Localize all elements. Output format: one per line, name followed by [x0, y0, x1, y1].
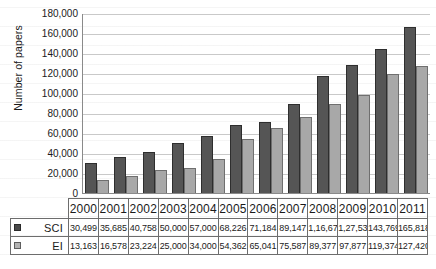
table-cell-value: 35,685 — [98, 219, 128, 237]
y-tick-label: 120,000 — [42, 69, 78, 79]
bar-group — [285, 14, 314, 193]
bar-ei-2000 — [97, 180, 109, 193]
table-cell-value: 30,499 — [69, 219, 99, 237]
table-cell-value: 119,374 — [368, 237, 398, 255]
legend-label: SCI — [44, 222, 63, 234]
bar-sci-2011 — [404, 27, 416, 193]
table-header-year: 2001 — [98, 199, 128, 219]
y-tick-label: 20,000 — [47, 169, 78, 179]
bar-group — [83, 14, 112, 193]
bar-group — [343, 14, 372, 193]
bar-group — [199, 14, 228, 193]
table-header-year: 2007 — [278, 199, 308, 219]
bar-ei-2002 — [155, 170, 167, 193]
legend-item-ei[interactable]: EI — [11, 237, 69, 255]
table-cell-value: 1,27,532 — [338, 219, 368, 237]
bar-group — [314, 14, 343, 193]
bar-group — [228, 14, 257, 193]
table-corner-cell — [11, 199, 69, 219]
table-header-year: 2003 — [158, 199, 188, 219]
bar-ei-2011 — [416, 66, 428, 193]
table-header-year: 2000 — [69, 199, 99, 219]
y-axis-ticks: 020,00040,00060,00080,000100,000120,0001… — [8, 14, 80, 194]
table-cell-value: 23,224 — [128, 237, 158, 255]
bar-ei-2008 — [329, 104, 341, 193]
table-header-year: 2006 — [248, 199, 278, 219]
bar-sci-2005 — [230, 125, 242, 193]
table-header-year: 2005 — [218, 199, 248, 219]
y-tick-label: 160,000 — [42, 29, 78, 39]
table-header-year: 2009 — [338, 199, 368, 219]
sci-swatch-icon — [14, 224, 21, 231]
bar-sci-2007 — [288, 104, 300, 193]
bar-groups — [83, 14, 430, 193]
table-header-year: 2004 — [188, 199, 218, 219]
table-cell-value: 54,362 — [218, 237, 248, 255]
bar-ei-2007 — [300, 117, 312, 193]
table-cell-value: 68,226 — [218, 219, 248, 237]
bar-ei-2005 — [242, 139, 254, 193]
bar-sci-2002 — [143, 152, 155, 193]
table-cell-value: 1,16,677 — [308, 219, 338, 237]
table-cell-value: 57,000 — [188, 219, 218, 237]
table-cell-value: 143,769 — [368, 219, 398, 237]
table-header-year: 2010 — [368, 199, 398, 219]
table-cell-value: 65,041 — [248, 237, 278, 255]
y-tick-label: 140,000 — [42, 49, 78, 59]
y-tick-label: 80,000 — [47, 109, 78, 119]
table-cell-value: 16,578 — [98, 237, 128, 255]
table-cell-value: 13,163 — [69, 237, 99, 255]
bar-group — [170, 14, 199, 193]
bar-sci-2006 — [259, 122, 271, 193]
ei-swatch-icon — [14, 242, 21, 249]
bar-sci-2010 — [375, 49, 387, 193]
bar-ei-2004 — [213, 159, 225, 193]
bar-sci-2003 — [172, 143, 184, 193]
y-tick-label: 40,000 — [47, 149, 78, 159]
legend-item-sci[interactable]: SCI — [11, 219, 69, 237]
table-cell-value: 34,000 — [188, 237, 218, 255]
bar-chart: Number of papers 020,00040,00060,00080,0… — [0, 0, 436, 205]
bar-group — [112, 14, 141, 193]
table-row-years: 2000200120022003200420052006200720082009… — [11, 199, 428, 219]
table-cell-value: 75,587 — [278, 237, 308, 255]
table-cell-value: 40,758 — [128, 219, 158, 237]
table-cell-value: 89,147 — [278, 219, 308, 237]
bar-sci-2008 — [317, 76, 329, 193]
table-cell-value: 25,000 — [158, 237, 188, 255]
table-row: SCI30,49935,68540,75850,00057,00068,2267… — [11, 219, 428, 237]
bar-ei-2009 — [358, 95, 370, 193]
bar-ei-2001 — [126, 176, 138, 193]
table-cell-value: 71,184 — [248, 219, 278, 237]
bar-ei-2003 — [184, 168, 196, 193]
bar-ei-2006 — [271, 128, 283, 193]
table-cell-value: 89,377 — [308, 237, 338, 255]
bar-sci-2009 — [346, 65, 358, 193]
table-cell-value: 165,818 — [397, 219, 427, 237]
table-header-year: 2011 — [397, 199, 427, 219]
table-cell-value: 97,877 — [338, 237, 368, 255]
bar-sci-2001 — [114, 157, 126, 193]
bar-group — [372, 14, 401, 193]
y-tick-label: 100,000 — [42, 89, 78, 99]
bar-group — [401, 14, 430, 193]
bar-sci-2004 — [201, 136, 213, 193]
bar-group — [257, 14, 286, 193]
table-cell-value: 127,420 — [397, 237, 427, 255]
bar-sci-2000 — [85, 163, 97, 193]
plot-area — [82, 14, 430, 194]
bar-group — [141, 14, 170, 193]
table-header-year: 2002 — [128, 199, 158, 219]
table-cell-value: 50,000 — [158, 219, 188, 237]
table-header-year: 2008 — [308, 199, 338, 219]
y-tick-label: 60,000 — [47, 129, 78, 139]
table-row: EI13,16316,57823,22425,00034,00054,36265… — [11, 237, 428, 255]
data-table: 2000200120022003200420052006200720082009… — [10, 198, 428, 255]
y-tick-label: 180,000 — [42, 9, 78, 19]
bar-ei-2010 — [387, 74, 399, 193]
legend-label: EI — [52, 240, 63, 252]
